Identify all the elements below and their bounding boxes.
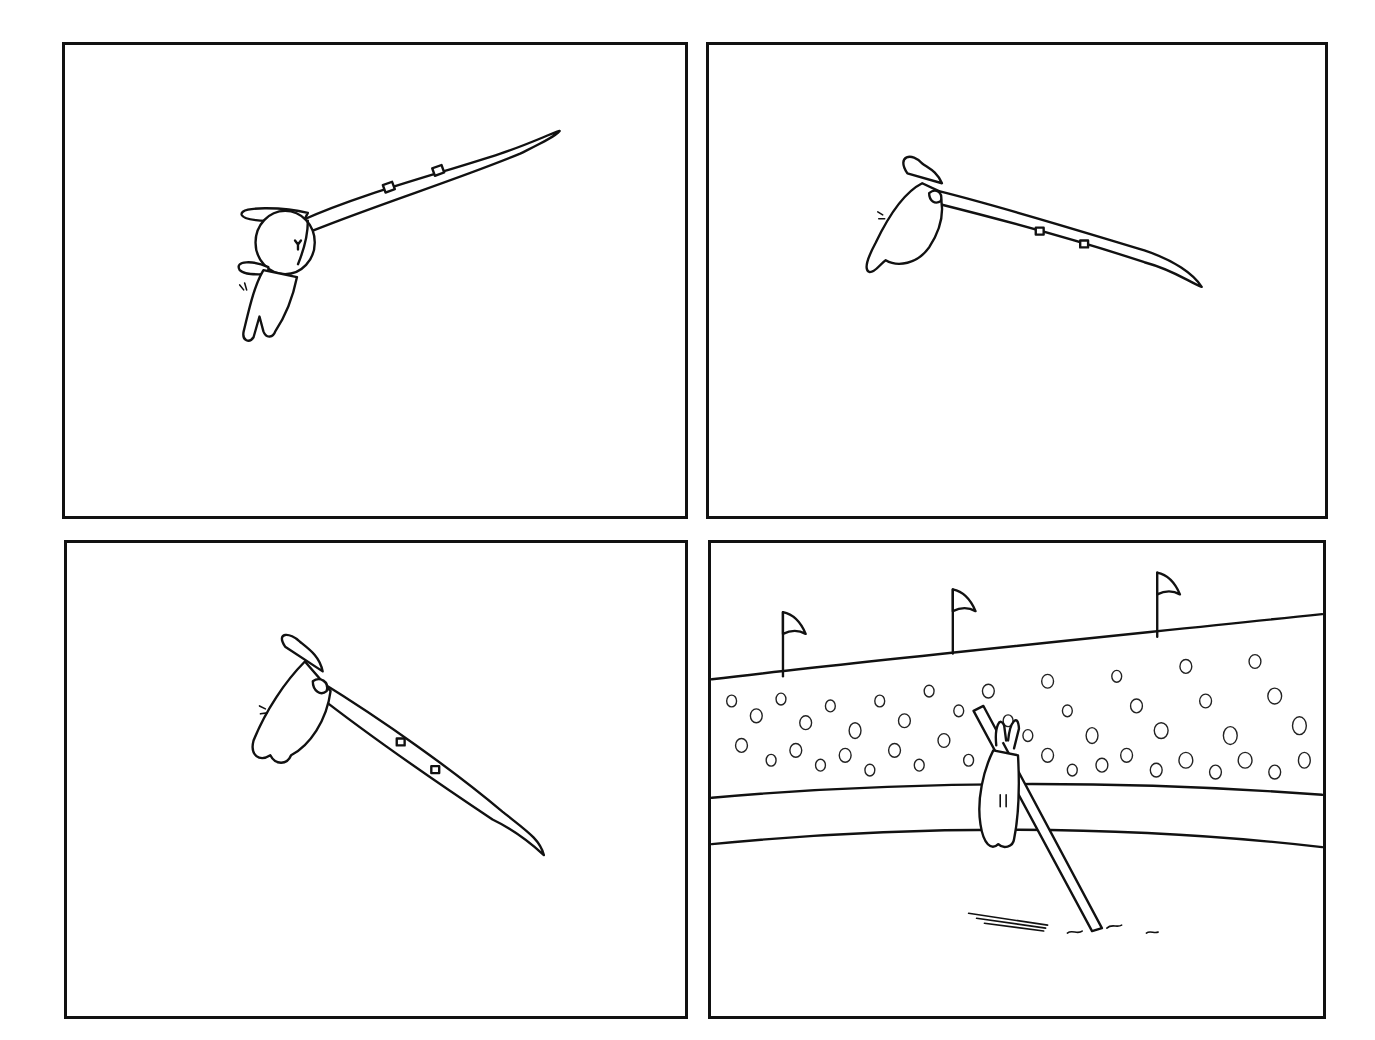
vaulting-pole <box>935 191 1202 287</box>
comic-panel-3 <box>64 540 688 1019</box>
ground-scuff-marks <box>969 913 1048 931</box>
rabbit <box>867 157 942 272</box>
comic-panel-4 <box>708 540 1326 1019</box>
rabbit-vaulting-rising-illustration <box>65 45 685 516</box>
stadium-stands-top <box>712 614 1322 679</box>
stadium-flags <box>783 573 1180 677</box>
vaulting-pole <box>315 681 544 855</box>
stadium-pole-landing-illustration <box>711 543 1323 1016</box>
vaulting-pole <box>301 131 560 231</box>
rabbit <box>253 635 331 763</box>
rabbit-vaulting-descending-illustration <box>67 543 685 1016</box>
rabbit <box>979 720 1019 847</box>
rabbit-vaulting-peak-illustration <box>709 45 1325 516</box>
comic-panel-2 <box>706 42 1328 519</box>
rabbit <box>239 208 315 340</box>
comic-panel-1 <box>62 42 688 519</box>
track-edge <box>712 830 1322 847</box>
dirt-clods <box>1067 925 1158 933</box>
